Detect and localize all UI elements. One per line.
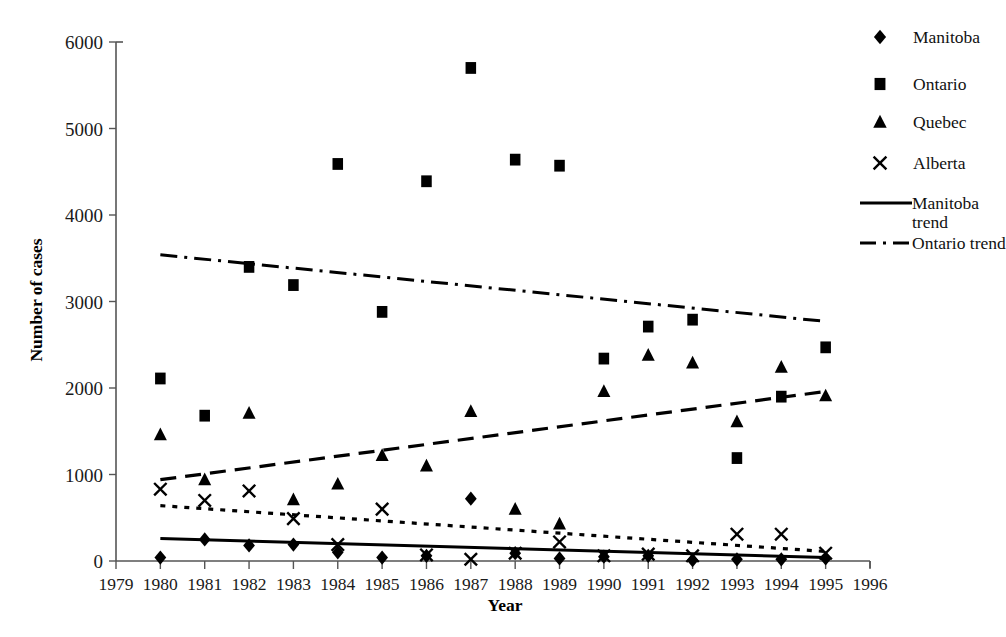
point-quebec-1989 [553,517,566,530]
point-manitoba-1983 [288,537,300,551]
point-ontario-1992 [687,314,698,326]
point-manitoba-1985 [376,550,388,564]
legend-label-manitoba-trend-1: Manitoba [912,193,979,213]
point-quebec-1993 [730,415,743,428]
point-manitoba-1989 [554,551,566,565]
point-quebec-1984 [331,477,344,490]
y-tick-label: 3000 [65,292,103,313]
legend-marker-quebec [873,115,886,128]
point-ontario-1991 [643,321,654,333]
y-axis-ticks: 0100020003000400050006000 [65,32,116,572]
y-tick-label: 4000 [65,205,103,226]
point-alberta-1994 [775,528,787,540]
x-tick-label: 1991 [631,574,666,594]
trend-line-alberta-trend [160,506,825,552]
x-axis-ticks: 1979198019811982198319841985198619871988… [99,561,888,594]
x-tick-label: 1984 [320,574,355,594]
point-manitoba-1987 [465,492,477,506]
point-quebec-1986 [420,459,433,472]
x-tick-label: 1994 [764,574,799,594]
point-quebec-1983 [287,492,300,505]
x-tick-label: 1988 [498,574,533,594]
point-alberta-1993 [731,528,743,540]
y-axis-title: Number of cases [26,238,46,361]
point-ontario-1994 [776,391,787,403]
legend-label-manitoba-trend-2: trend [912,212,948,232]
point-quebec-1992 [686,356,699,369]
point-ontario-1982 [244,261,255,273]
x-tick-label: 1990 [586,574,621,594]
x-tick-label: 1989 [542,574,577,594]
scatter-chart: 0100020003000400050006000 19791980198119… [0,0,1006,637]
x-tick-label: 1981 [187,574,222,594]
x-tick-label: 1995 [808,574,843,594]
point-ontario-1988 [510,154,521,166]
chart-legend: ManitobaOntarioQuebecAlbertaManitobatren… [860,27,1006,253]
x-tick-label: 1993 [719,574,754,594]
point-ontario-1984 [332,158,343,170]
point-quebec-1995 [819,389,832,402]
trend-line-ontario-trend [160,255,825,322]
x-tick-label: 1980 [143,574,178,594]
trend-line-quebec-trend [160,391,825,479]
x-tick-label: 1985 [365,574,400,594]
point-ontario-1985 [377,306,388,318]
y-tick-label: 2000 [65,378,103,399]
point-ontario-1987 [466,62,477,74]
point-ontario-1993 [732,452,743,464]
x-tick-label: 1992 [675,574,710,594]
point-quebec-1980 [154,428,167,441]
legend-label-manitoba: Manitoba [913,27,980,47]
legend-label-alberta: Alberta [913,153,966,173]
y-tick-label: 1000 [65,465,103,486]
x-tick-label: 1986 [409,574,444,594]
point-ontario-1981 [199,410,210,422]
x-tick-label: 1982 [232,574,267,594]
point-alberta-1982 [243,485,255,497]
point-alberta-1981 [199,494,211,506]
point-ontario-1995 [820,341,831,353]
legend-marker-manitoba [874,30,886,45]
x-tick-label: 1979 [99,574,134,594]
point-manitoba-1994 [775,552,787,566]
point-ontario-1986 [421,175,432,187]
point-ontario-1983 [288,279,299,291]
legend-marker-ontario [875,78,886,90]
point-alberta-1989 [553,536,565,548]
legend-label-ontario-trend: Ontario trend [912,233,1006,253]
data-markers [154,62,832,567]
point-quebec-1988 [509,502,522,515]
point-manitoba-1980 [154,550,166,564]
axes [116,42,870,568]
y-tick-label: 0 [94,551,104,572]
x-axis-title: Year [488,595,523,615]
point-ontario-1989 [554,160,565,172]
point-quebec-1991 [642,348,655,361]
point-alberta-1985 [376,503,388,515]
point-ontario-1980 [155,373,166,385]
legend-label-quebec: Quebec [913,112,967,132]
legend-label-ontario: Ontario [913,74,967,94]
x-tick-label: 1987 [453,574,488,594]
point-manitoba-1981 [199,532,211,546]
point-quebec-1994 [775,360,788,373]
point-alberta-1980 [154,483,166,495]
point-ontario-1990 [599,353,610,365]
legend-marker-alberta [874,157,887,170]
point-quebec-1987 [464,404,477,417]
x-tick-label: 1983 [276,574,311,594]
point-quebec-1990 [597,384,610,397]
trend-lines [160,255,825,558]
point-quebec-1982 [243,406,256,419]
y-tick-label: 6000 [65,32,103,53]
y-tick-label: 5000 [65,119,103,140]
x-tick-label: 1996 [853,574,888,594]
trend-line-manitoba-trend [160,539,825,558]
chart-canvas: 0100020003000400050006000 19791980198119… [0,0,1006,637]
